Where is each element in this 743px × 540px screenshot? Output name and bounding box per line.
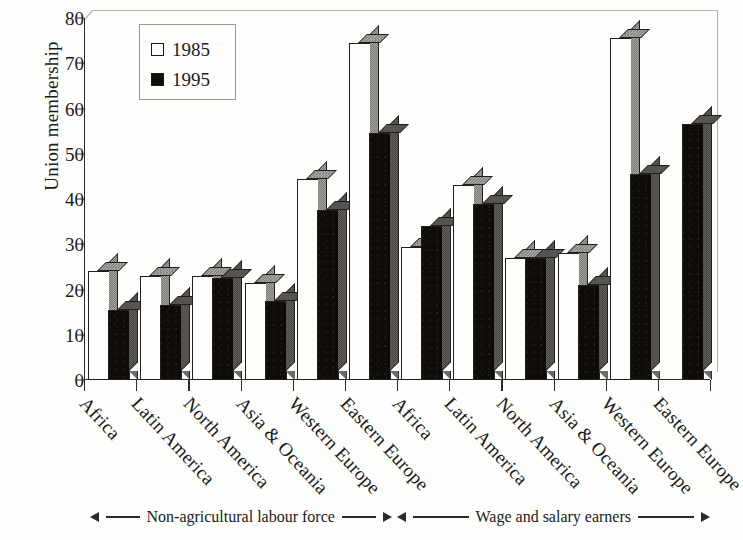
y-tick-mark	[77, 244, 84, 245]
x-tick-mark	[188, 380, 189, 391]
bar-1995-western-europe-10	[630, 174, 652, 380]
y-axis: Union membership 01020304050607080	[0, 0, 84, 540]
bar-front-face	[317, 210, 339, 380]
bar-1985-africa-6	[401, 247, 423, 380]
legend-swatch-filled-square-icon	[151, 73, 164, 86]
x-tick-mark	[84, 380, 85, 391]
bar-front-face	[525, 258, 547, 380]
bar-front-face	[630, 174, 652, 380]
x-tick-mark	[241, 380, 242, 391]
bar-1995-eastern-europe-5	[369, 133, 391, 380]
bar-base-shadow	[233, 371, 242, 380]
y-axis-title: Union membership	[41, 0, 63, 261]
bar-1995-asia-oceania-9	[578, 285, 600, 380]
annotation-wage-and-salary-earners: Wage and salary earners	[397, 508, 711, 526]
x-tick-mark	[136, 380, 137, 391]
bar-1985-north-america-8	[505, 258, 527, 380]
bar-top-face	[462, 176, 493, 185]
legend-label-1985: 1985	[172, 40, 210, 59]
x-tick-mark	[501, 380, 502, 391]
arrow-right-icon	[383, 512, 392, 522]
bar-front-face	[160, 305, 182, 380]
bar-1995-latin-america-7	[473, 204, 495, 380]
bar-front-face	[610, 38, 632, 380]
legend-swatch-hollow-square-icon	[151, 43, 164, 56]
bracket-line-left	[106, 516, 140, 517]
bar-base-shadow	[181, 371, 190, 380]
bar-1985-asia-oceania-9	[558, 253, 580, 380]
bar-base-shadow	[599, 371, 608, 380]
bar-base-shadow	[129, 371, 138, 380]
bar-1995-north-america-2	[212, 278, 234, 380]
bar-1985-western-europe-4	[297, 179, 319, 380]
y-tick-mark	[77, 380, 84, 381]
bar-front-face	[192, 276, 214, 380]
bar-front-face	[265, 301, 287, 380]
bar-front-face	[88, 271, 110, 380]
y-tick-mark	[77, 63, 84, 64]
bar-side-face	[546, 240, 555, 371]
x-axis-label-3: Asia & Oceania	[231, 393, 332, 499]
bar-side-face	[390, 115, 399, 371]
bar-top-face	[639, 165, 670, 174]
bar-1995-eastern-europe-11	[682, 124, 704, 380]
bar-base-shadow	[651, 371, 660, 380]
bar-base-shadow	[546, 371, 555, 380]
bar-base-shadow	[286, 371, 295, 380]
bar-side-face	[338, 192, 347, 371]
bar-side-face	[703, 106, 712, 371]
legend-entry-1995: 1995	[151, 64, 235, 94]
bar-top-face	[306, 170, 337, 179]
annotation-non-agricultural-labour-force: Non-agricultural labour force	[90, 508, 392, 526]
arrow-left-icon	[90, 512, 99, 522]
bar-base-shadow	[338, 371, 347, 380]
y-tick-mark	[77, 153, 84, 154]
bar-top-face	[567, 244, 598, 253]
y-tick-mark	[77, 199, 84, 200]
legend-entry-1985: 1985	[151, 34, 235, 64]
bar-1985-latin-america-7	[453, 185, 475, 380]
bar-top-face	[378, 124, 409, 133]
x-tick-mark	[710, 380, 711, 391]
bar-base-shadow	[703, 371, 712, 380]
bar-front-face	[140, 276, 162, 380]
bar-base-shadow	[442, 371, 451, 380]
legend: 1985 1995	[139, 24, 236, 100]
bar-1985-latin-america-1	[140, 276, 162, 380]
y-tick-mark	[77, 334, 84, 335]
bar-top-face	[149, 267, 180, 276]
x-tick-mark	[449, 380, 450, 391]
bar-front-face	[558, 253, 580, 380]
bar-1995-north-america-8	[525, 258, 547, 380]
x-tick-mark	[554, 380, 555, 391]
bar-top-face	[358, 34, 389, 43]
bar-1985-eastern-europe-5	[349, 43, 371, 380]
bar-front-face	[453, 185, 475, 380]
bar-top-face	[97, 262, 128, 271]
bar-1995-asia-oceania-3	[265, 301, 287, 380]
y-tick-mark	[77, 108, 84, 109]
bar-front-face	[473, 204, 495, 380]
bar-base-shadow	[390, 371, 399, 380]
bar-1995-africa-0	[108, 310, 130, 380]
bracket-line-right	[638, 516, 694, 517]
bar-1985-asia-oceania-3	[245, 283, 267, 380]
arrow-left-icon	[397, 512, 406, 522]
bar-side-face	[651, 156, 660, 371]
bar-chart: Union membership 01020304050607080 Afric…	[0, 0, 743, 540]
x-axis-label-9: Asia & Oceania	[544, 393, 645, 499]
bar-1995-latin-america-1	[160, 305, 182, 380]
x-axis-label-6: Africa	[388, 393, 438, 444]
x-tick-mark	[293, 380, 294, 391]
bar-top-face	[254, 274, 285, 283]
bar-top-face	[619, 29, 650, 38]
bar-front-face	[401, 247, 423, 380]
bar-front-face	[245, 283, 267, 380]
bar-front-face	[421, 226, 443, 380]
bar-base-shadow	[494, 371, 503, 380]
bar-top-face	[482, 195, 513, 204]
bar-front-face	[682, 124, 704, 380]
bar-front-face	[212, 278, 234, 380]
bar-front-face	[297, 179, 319, 380]
bar-top-face	[691, 115, 722, 124]
